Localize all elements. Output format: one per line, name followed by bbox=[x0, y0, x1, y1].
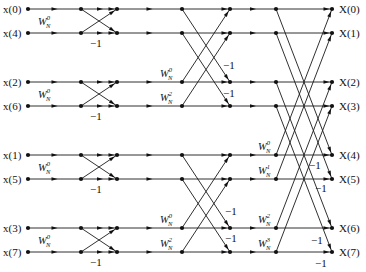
arrow-icon bbox=[109, 27, 115, 32]
arrow-icon bbox=[327, 146, 331, 152]
arrow-icon bbox=[97, 7, 103, 11]
arrow-icon bbox=[224, 11, 229, 17]
stage2-twiddle-1: W2N bbox=[160, 90, 173, 105]
node-dot bbox=[115, 226, 119, 230]
flow-edges bbox=[28, 9, 332, 252]
node-dot bbox=[26, 7, 30, 11]
stage2-minus-one-2: −1 bbox=[225, 205, 237, 217]
node-dot bbox=[115, 104, 119, 108]
arrow-icon bbox=[97, 177, 103, 181]
output-label-2: X(2) bbox=[339, 76, 360, 89]
node-dot bbox=[274, 153, 278, 157]
stage1-minus-one-3: −1 bbox=[90, 256, 102, 268]
arrow-icon bbox=[147, 7, 153, 11]
arrow-icon bbox=[147, 153, 153, 157]
arrow-icon bbox=[250, 104, 256, 108]
arrow-icon bbox=[224, 220, 229, 226]
arrow-icon bbox=[97, 226, 103, 230]
arrow-icon bbox=[147, 31, 153, 35]
arrow-icon bbox=[109, 153, 115, 157]
arrow-icon bbox=[222, 80, 228, 84]
arrow-icon bbox=[224, 157, 229, 163]
arrow-icon bbox=[324, 153, 330, 157]
arrow-icon bbox=[250, 7, 256, 11]
node-dot bbox=[330, 226, 334, 230]
node-dot bbox=[26, 31, 30, 35]
node-dot bbox=[79, 153, 83, 157]
input-label-1: x(4) bbox=[3, 27, 22, 40]
node-dot bbox=[115, 31, 119, 35]
arrow-icon bbox=[109, 173, 115, 178]
fft-butterfly-diagram: x(0) x(4) x(2) x(6) x(1) x(5) x(3) x(7) … bbox=[0, 0, 366, 272]
node-dot bbox=[115, 177, 119, 181]
arrow-icon bbox=[147, 250, 153, 254]
node-dot bbox=[330, 7, 334, 11]
node-dot bbox=[26, 177, 30, 181]
arrow-icon bbox=[222, 31, 228, 35]
node-dot bbox=[26, 153, 30, 157]
stage2-minus-one-0: −1 bbox=[223, 59, 235, 71]
node-dot bbox=[26, 80, 30, 84]
input-labels: x(0) x(4) x(2) x(6) x(1) x(5) x(3) x(7) bbox=[3, 3, 22, 259]
input-label-5: x(5) bbox=[3, 173, 22, 186]
node-dot bbox=[180, 80, 184, 84]
arrow-icon bbox=[224, 244, 229, 250]
output-label-7: X(7) bbox=[339, 246, 360, 259]
stage3-twiddle-3: W3N bbox=[258, 236, 271, 251]
arrow-icon bbox=[250, 153, 256, 157]
node-dot bbox=[330, 80, 334, 84]
stage2-twiddles: W0N W2N W0N W2N bbox=[160, 66, 173, 251]
arrow-icon bbox=[324, 226, 330, 230]
node-dot bbox=[228, 153, 232, 157]
arrow-icon bbox=[97, 80, 103, 84]
node-dot bbox=[274, 80, 278, 84]
stage1-minus-one-1: −1 bbox=[90, 110, 102, 122]
arrow-icon bbox=[109, 31, 115, 35]
stage1-twiddles: W0N W0N W0N W0N bbox=[38, 14, 51, 248]
arrow-icon bbox=[109, 226, 115, 230]
arrow-icon bbox=[52, 7, 58, 11]
arrow-icon bbox=[222, 250, 228, 254]
stage3-twiddle-0: W0N bbox=[258, 139, 271, 154]
stage2-twiddle-2: W0N bbox=[160, 212, 173, 227]
node-dot bbox=[228, 31, 232, 35]
node-dot bbox=[228, 104, 232, 108]
stage3-minus-one-1: −1 bbox=[315, 182, 327, 194]
arrow-icon bbox=[327, 35, 331, 41]
arrow-icon bbox=[52, 80, 58, 84]
node-dot bbox=[115, 80, 119, 84]
stage3-twiddle-2: W2N bbox=[258, 212, 271, 227]
output-label-4: X(4) bbox=[339, 149, 360, 162]
node-dot bbox=[228, 226, 232, 230]
node-dot bbox=[79, 31, 83, 35]
stage3-twiddle-1: W1N bbox=[258, 163, 271, 178]
arrow-icon bbox=[109, 246, 115, 251]
arrow-icon bbox=[250, 177, 256, 181]
arrow-icon bbox=[250, 226, 256, 230]
arrow-icon bbox=[52, 250, 58, 254]
node-dot bbox=[79, 104, 83, 108]
arrow-icon bbox=[97, 153, 103, 157]
arrow-icon bbox=[324, 177, 330, 181]
arrow-icon bbox=[147, 177, 153, 181]
arrow-icon bbox=[109, 250, 115, 254]
input-label-6: x(3) bbox=[3, 222, 22, 235]
node-dot bbox=[115, 153, 119, 157]
node-dot bbox=[274, 104, 278, 108]
arrow-icon bbox=[224, 74, 229, 80]
node-dot bbox=[274, 177, 278, 181]
stage3-minus-one-0: −1 bbox=[309, 159, 321, 171]
node-dot bbox=[26, 104, 30, 108]
arrow-icon bbox=[147, 226, 153, 230]
node-dot bbox=[79, 177, 83, 181]
node-dot bbox=[330, 104, 334, 108]
node-dot bbox=[274, 7, 278, 11]
node-dot bbox=[180, 226, 184, 230]
arrow-icon bbox=[222, 226, 228, 230]
arrow-icon bbox=[327, 11, 331, 17]
arrow-icon bbox=[250, 31, 256, 35]
output-labels: X(0) X(1) X(2) X(3) X(4) X(5) X(6) X(7) bbox=[339, 3, 360, 259]
arrow-icon bbox=[52, 31, 58, 35]
node-dot bbox=[115, 7, 119, 11]
node-dot bbox=[330, 153, 334, 157]
